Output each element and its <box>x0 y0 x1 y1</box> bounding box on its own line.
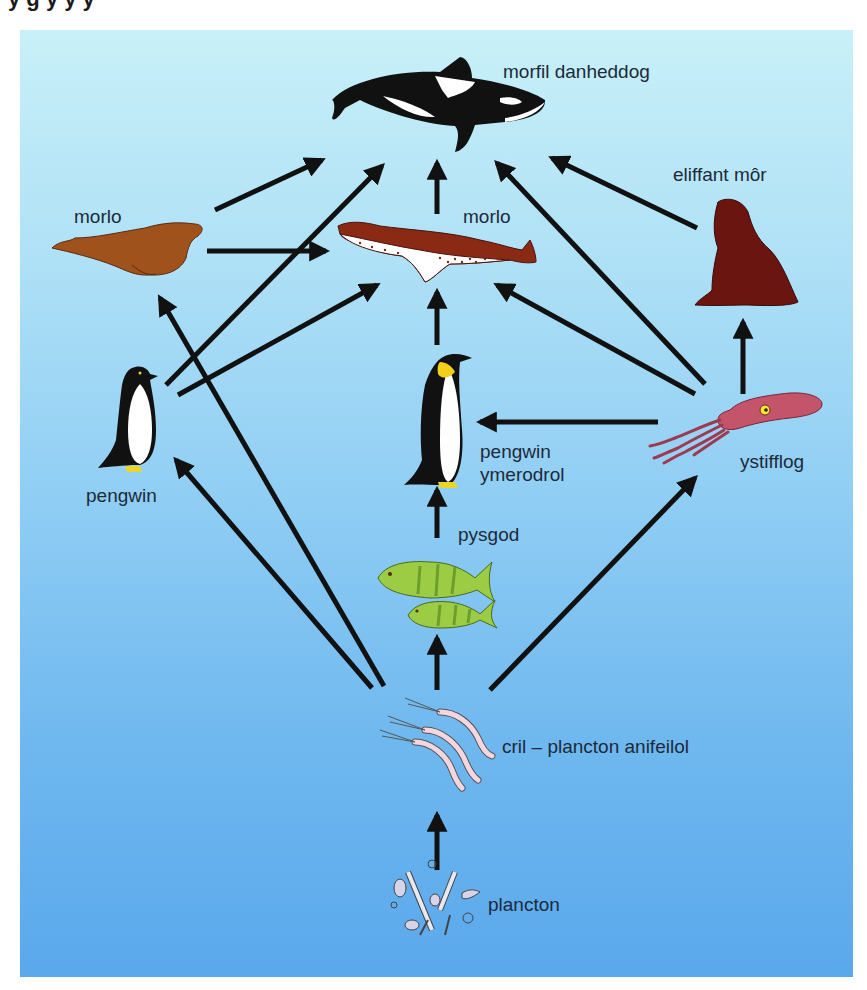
label-emperor-penguin-line1: pengwin <box>480 440 551 463</box>
leopard-seal-icon <box>338 222 536 282</box>
arrow-squid-to-orca <box>497 163 705 384</box>
arrow-krill-to-seal <box>160 298 384 686</box>
krill-icon <box>380 698 492 788</box>
arrow-krill-to-squid <box>490 478 695 690</box>
label-squid: ystifflog <box>740 450 804 473</box>
seal-icon <box>52 223 202 275</box>
elephant-seal-icon <box>695 199 798 305</box>
fish-icon <box>378 562 497 628</box>
label-elephant-seal: eliffant môr <box>673 163 767 186</box>
label-seal: morlo <box>74 205 122 228</box>
label-orca: morfil danheddog <box>503 60 650 83</box>
emperor-penguin-icon <box>404 354 472 488</box>
label-leopard-seal: morlo <box>463 205 511 228</box>
label-fish: pysgod <box>458 523 519 546</box>
label-plankton: plancton <box>488 893 560 916</box>
plankton-icon <box>391 860 480 935</box>
label-emperor-penguin-line2: ymerodrol <box>480 463 564 486</box>
label-penguin: pengwin <box>86 484 157 507</box>
penguin-icon <box>98 366 158 472</box>
arrow-penguin-to-orca <box>166 166 382 385</box>
arrow-seal-to-orca <box>215 160 322 210</box>
label-krill: cril – plancton anifeilol <box>502 735 689 758</box>
